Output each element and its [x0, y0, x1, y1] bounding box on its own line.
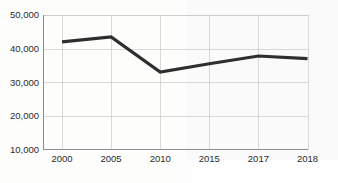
y-tick-labels: 50,00040,00030,00020,00010,000 — [10, 9, 39, 155]
x-axis-tick-label: 2010 — [150, 153, 171, 164]
y-gridlines — [44, 16, 308, 117]
data-series-line — [62, 37, 308, 72]
x-axis-tick-label: 2015 — [199, 153, 220, 164]
y-axis-tick-label: 40,000 — [10, 43, 39, 54]
x-axis-tick-label: 2018 — [297, 153, 318, 164]
y-axis-tick-label: 20,000 — [10, 110, 39, 121]
chart-container: 50,00040,00030,00020,00010,000 200020052… — [0, 0, 338, 183]
line-chart-plot: 50,00040,00030,00020,00010,000 200020052… — [0, 0, 338, 183]
x-axis-tick-label: 2017 — [248, 153, 269, 164]
x-tick-labels: 200020052010201520172018 — [51, 153, 318, 164]
x-axis-tick-label: 2005 — [101, 153, 122, 164]
y-axis-tick-label: 50,000 — [10, 9, 39, 20]
x-axis-tick-label: 2000 — [51, 153, 72, 164]
y-axis-tick-label: 30,000 — [10, 77, 39, 88]
y-axis-tick-label: 10,000 — [10, 144, 39, 155]
